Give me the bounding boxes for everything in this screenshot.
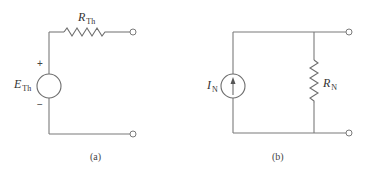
terminal-a-top	[130, 29, 136, 35]
voltage-source-icon	[37, 74, 61, 98]
circuit-diagram: RTh ETh + − (a) IN RN	[0, 0, 365, 169]
thevenin-circuit: RTh ETh + − (a)	[13, 10, 136, 163]
in-label: IN	[206, 78, 218, 94]
norton-circuit: IN RN (b)	[206, 29, 352, 163]
caption-a: (a)	[90, 151, 101, 163]
caption-b: (b)	[272, 151, 284, 163]
minus-sign: −	[37, 99, 43, 110]
plus-sign: +	[37, 58, 43, 69]
terminal-b-top	[346, 29, 352, 35]
resistor-rn-icon	[310, 60, 318, 103]
eth-label: ETh	[13, 77, 31, 93]
rn-label: RN	[322, 76, 337, 92]
terminal-a-bottom	[130, 131, 136, 137]
resistor-rth-icon	[64, 28, 108, 36]
rth-label: RTh	[77, 10, 95, 26]
current-arrow-head-icon	[231, 77, 236, 84]
terminal-b-bottom	[346, 130, 352, 136]
